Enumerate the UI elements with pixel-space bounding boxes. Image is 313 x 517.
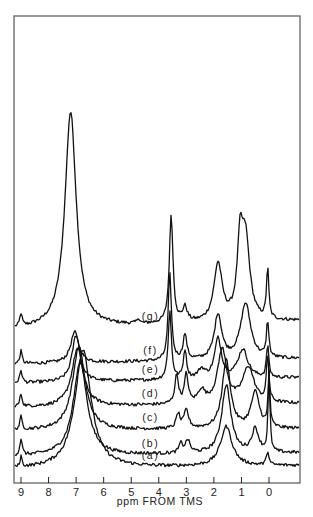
trace-label-d: (d) <box>142 387 159 399</box>
trace-label-e: (e) <box>142 363 159 375</box>
x-tick-label-1: 1 <box>238 486 244 498</box>
x-axis-label: ppm FROM TMS <box>117 495 203 507</box>
trace-label-b: (b) <box>142 437 159 449</box>
x-tick-label-2: 2 <box>211 486 217 498</box>
trace-label-g: (g) <box>142 310 159 322</box>
trace-label-f: (f) <box>143 344 157 356</box>
x-tick-label-7: 7 <box>73 486 79 498</box>
spectrum-trace-g <box>15 113 299 326</box>
x-tick-label-9: 9 <box>18 486 24 498</box>
trace-label-c: (c) <box>142 411 159 423</box>
x-axis-ticks <box>21 477 269 483</box>
x-tick-label-0: 0 <box>266 486 272 498</box>
trace-label-a: (a) <box>142 449 159 461</box>
x-tick-label-6: 6 <box>101 486 107 498</box>
x-tick-label-8: 8 <box>45 486 51 498</box>
trace-labels: (g)(f)(e)(d)(c)(b)(a) <box>142 310 159 461</box>
nmr-stacked-spectra-chart: (g)(f)(e)(d)(c)(b)(a) 9876543210 ppm FRO… <box>0 0 313 517</box>
